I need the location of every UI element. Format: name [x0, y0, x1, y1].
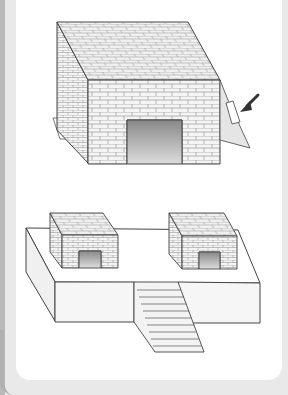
illustration: [0, 0, 288, 395]
small-shelter-right: [169, 213, 237, 269]
small-shelter-left: [50, 213, 118, 268]
arrow-icon: [240, 95, 258, 112]
top-shelter: [53, 22, 250, 164]
